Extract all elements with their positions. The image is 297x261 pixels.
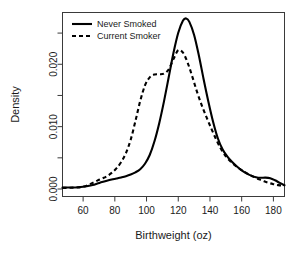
plot-frame-group (63, 13, 285, 197)
legend-label-current-smoker: Current Smoker (97, 31, 161, 41)
x-tick-label-120: 120 (170, 205, 187, 216)
chart-canvas: 6080100120140160180 0.0000.0100.020 Neve… (0, 0, 297, 261)
plot-border (63, 13, 285, 197)
x-tick-label-100: 100 (138, 205, 155, 216)
y-axis-title: Density (9, 86, 21, 123)
x-axis-title: Birthweight (oz) (135, 229, 211, 241)
x-tick-label-180: 180 (265, 205, 282, 216)
x-tick-label-160: 160 (233, 205, 250, 216)
x-axis-tick-labels-group: 6080100120140160180 (78, 205, 283, 216)
y-axis-tick-labels-group: 0.0000.0100.020 (48, 51, 59, 201)
y-tick-label-0.010: 0.010 (48, 114, 59, 139)
curve-current-smoker (63, 50, 285, 188)
legend-label-never-smoked: Never Smoked (97, 19, 157, 29)
density-plot-figure: 6080100120140160180 0.0000.0100.020 Neve… (0, 0, 297, 261)
x-tick-label-60: 60 (78, 205, 90, 216)
x-axis-ticks-group (83, 197, 273, 202)
y-tick-label-0.000: 0.000 (48, 176, 59, 201)
x-tick-label-80: 80 (109, 205, 121, 216)
legend-group: Never SmokedCurrent Smoker (72, 19, 161, 41)
data-curves-group (63, 18, 285, 188)
curve-never-smoked (63, 18, 285, 187)
y-tick-label-0.020: 0.020 (48, 51, 59, 76)
x-tick-label-140: 140 (202, 205, 219, 216)
